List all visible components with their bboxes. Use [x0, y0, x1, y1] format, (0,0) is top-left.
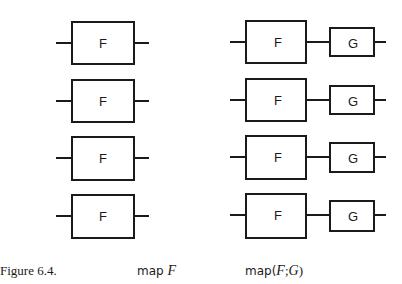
left-row-2: F [56, 80, 149, 122]
f-label: F [274, 208, 282, 223]
left-caption: map F [137, 263, 176, 279]
right-caption-suffix: ) [299, 263, 303, 278]
right-row-2: F G [230, 79, 386, 121]
f-label: F [274, 150, 282, 165]
left-row-4: F [56, 195, 149, 238]
f-label: F [99, 209, 107, 224]
right-caption-arg2: G [289, 263, 299, 278]
right-caption: map(F;G) [245, 263, 303, 279]
right-row-4: F G [230, 194, 386, 238]
f-label: F [99, 36, 107, 51]
g-label: G [348, 151, 358, 166]
g-label: G [348, 209, 358, 224]
left-row-3: F [56, 137, 149, 180]
left-caption-arg: F [167, 263, 176, 278]
diagram-canvas: F F F F F G F G [0, 0, 402, 284]
right-caption-prefix: map( [245, 264, 276, 278]
left-row-1: F [56, 22, 149, 64]
f-label: F [274, 35, 282, 50]
g-label: G [348, 36, 358, 51]
left-caption-prefix: map [137, 264, 167, 278]
f-label: F [99, 151, 107, 166]
g-label: G [348, 94, 358, 109]
figure-caption-label: Figure 6.4. [0, 263, 57, 279]
f-label: F [274, 93, 282, 108]
right-row-1: F G [230, 21, 386, 63]
f-label: F [99, 94, 107, 109]
right-row-3: F G [230, 136, 386, 179]
right-caption-arg1: F [276, 263, 285, 278]
